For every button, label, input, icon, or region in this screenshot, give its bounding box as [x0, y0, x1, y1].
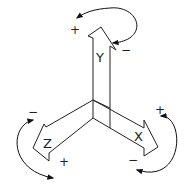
y-axis-arrow	[88, 27, 116, 128]
z-minus-sign: −	[28, 105, 38, 119]
z-axis-label: Z	[43, 136, 52, 151]
y-plus-sign: +	[70, 23, 80, 37]
x-plus-sign: +	[155, 103, 165, 117]
x-axis-label: X	[134, 129, 143, 144]
z-plus-sign: +	[59, 155, 69, 169]
y-axis-label: Y	[95, 50, 104, 65]
z-axis-arrow	[33, 100, 110, 161]
y-minus-sign: −	[121, 43, 131, 57]
x-axis-arrow	[93, 100, 158, 156]
x-minus-sign: −	[128, 153, 138, 167]
y-rotation-arc-icon	[77, 8, 137, 43]
axis-rotation-diagram: Y Z X + − − + + −	[0, 0, 188, 194]
